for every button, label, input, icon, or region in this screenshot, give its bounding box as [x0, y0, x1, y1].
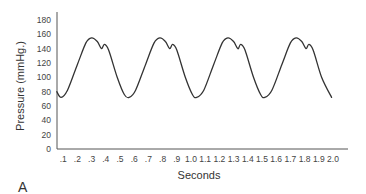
x-tick-labels: .1.2.3.4.5.6.7.8.91.01.11.21.31.41.51.61…	[60, 154, 340, 164]
x-tick-label: 1.2	[213, 154, 225, 164]
x-tick-label: .3	[88, 154, 95, 164]
y-tick-label: 180	[37, 15, 51, 25]
y-tick-label: 0	[46, 144, 51, 154]
x-tick-label: 1.1	[199, 154, 211, 164]
x-tick-label: 1.4	[242, 154, 254, 164]
x-tick-label: 1.0	[185, 154, 197, 164]
x-tick-label: 1.9	[313, 154, 325, 164]
y-tick-labels: 020406080100120140160180	[37, 15, 51, 154]
x-tick-label: 1.8	[299, 154, 311, 164]
y-tick-label: 140	[37, 44, 51, 54]
panel-label: A	[18, 179, 28, 194]
pressure-waveform-line	[57, 38, 332, 98]
x-tick-label: 2.0	[327, 154, 339, 164]
y-tick-label: 20	[42, 130, 52, 140]
x-tick-label: .1	[60, 154, 67, 164]
y-tick-label: 100	[37, 72, 51, 82]
y-tick-label: 40	[42, 115, 52, 125]
x-tick-label: .2	[74, 154, 81, 164]
pressure-chart: 020406080100120140160180 .1.2.3.4.5.6.7.…	[0, 0, 366, 194]
x-tick-label: 1.5	[256, 154, 268, 164]
x-tick-label: .9	[173, 154, 180, 164]
x-axis-label: Seconds	[178, 169, 221, 181]
x-tick-label: 1.6	[270, 154, 282, 164]
y-tick-label: 80	[42, 87, 52, 97]
x-tick-label: .4	[102, 154, 109, 164]
x-tick-label: 1.7	[284, 154, 296, 164]
y-tick-label: 160	[37, 29, 51, 39]
x-tick-label: 1.3	[228, 154, 240, 164]
y-tick-label: 120	[37, 58, 51, 68]
x-tick-label: .6	[131, 154, 138, 164]
y-tick-label: 60	[42, 101, 52, 111]
x-tick-label: .7	[145, 154, 152, 164]
y-axis-label: Pressure (mmHg.)	[14, 41, 26, 131]
x-tick-label: .5	[116, 154, 123, 164]
x-tick-label: .8	[159, 154, 166, 164]
